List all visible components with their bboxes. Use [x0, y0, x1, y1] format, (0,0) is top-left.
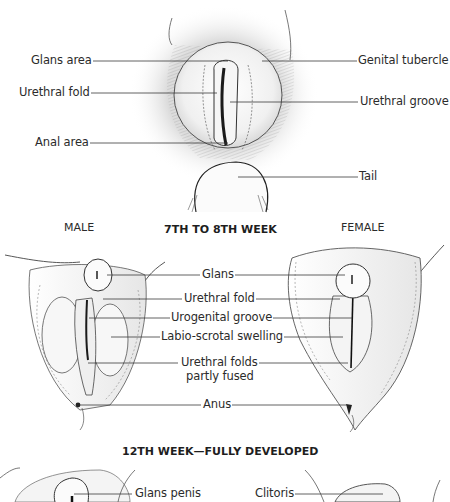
female-7-8-week-illustration: [288, 245, 444, 432]
label-urethral-folds: Urethral folds: [180, 356, 259, 369]
label-anal-area: Anal area: [34, 136, 90, 149]
label-urethral-fold-7wk: Urethral fold: [183, 292, 256, 305]
label-glans: Glans: [201, 268, 235, 281]
label-urogenital-groove: Urogenital groove: [170, 311, 273, 324]
label-genital-tubercle: Genital tubercle: [357, 54, 450, 67]
fully-developed-12-week-illustration: [0, 468, 440, 502]
label-anus: Anus: [202, 398, 232, 411]
label-glans-area: Glans area: [30, 54, 93, 67]
label-labio-scrotal-swelling: Labio-scrotal swelling: [160, 330, 284, 343]
label-partly-fused: partly fused: [185, 370, 255, 383]
label-tail: Tail: [358, 170, 378, 183]
heading-7th-to-8th-week: 7TH TO 8TH WEEK: [164, 223, 277, 236]
label-female: FEMALE: [341, 221, 384, 234]
heading-12th-week-fully-developed: 12TH WEEK—FULLY DEVELOPED: [122, 445, 318, 458]
label-clitoris: Clitoris: [254, 487, 295, 500]
label-glans-penis: Glans penis: [134, 487, 202, 500]
label-urethral-groove: Urethral groove: [359, 95, 450, 108]
label-male: MALE: [64, 221, 94, 234]
male-7-8-week-illustration: [5, 255, 165, 430]
indifferent-stage-illustration: [129, 5, 319, 212]
label-urethral-fold: Urethral fold: [18, 86, 91, 99]
